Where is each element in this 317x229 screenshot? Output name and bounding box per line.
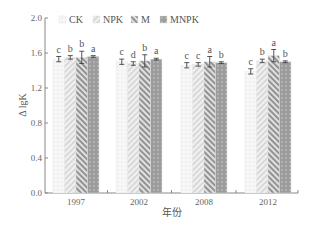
y-tick-label: 2.0 — [31, 13, 43, 23]
significance-letter: d — [131, 49, 136, 60]
legend-item-NPK: NPK — [93, 14, 124, 25]
y-tick-label: 1.2 — [31, 83, 42, 93]
significance-letter: c — [249, 56, 254, 67]
y-tick-label: 0.8 — [31, 118, 43, 128]
bar-M — [268, 56, 280, 193]
x-tick-label: 2012 — [259, 197, 277, 207]
legend-swatch — [160, 16, 167, 23]
legend-label: MNPK — [170, 14, 200, 25]
legend: CKNPKMMNPK — [59, 14, 200, 25]
y-tick-label: 0.0 — [31, 188, 43, 198]
x-tick-label: 1997 — [67, 197, 86, 207]
significance-letter: b — [142, 42, 147, 53]
significance-letter: b — [260, 46, 265, 57]
bar-group-2008: ccab2008 — [181, 44, 227, 208]
legend-swatch — [93, 16, 100, 23]
bar-MNPK — [151, 59, 163, 193]
bar-group-2002: cdba2002 — [116, 42, 162, 207]
significance-letter: a — [272, 37, 277, 48]
legend-item-CK: CK — [59, 14, 84, 25]
bar-MNPK — [88, 57, 100, 194]
significance-letter: c — [196, 50, 201, 61]
bar-CK — [116, 62, 128, 193]
legend-swatch — [59, 16, 66, 23]
bar-M — [76, 57, 88, 193]
x-tick-label: 2002 — [130, 197, 148, 207]
bar-M — [139, 61, 151, 193]
bar-NPK — [65, 57, 77, 193]
bar-MNPK — [216, 63, 228, 193]
legend-label: NPK — [103, 14, 124, 25]
significance-letter: a — [91, 43, 96, 54]
y-tick-label: 0.4 — [31, 153, 43, 163]
legend-item-M: M — [131, 14, 150, 25]
bar-NPK — [193, 64, 205, 193]
bar-NPK — [128, 64, 140, 194]
significance-letter: a — [154, 45, 159, 56]
significance-letter: b — [68, 43, 73, 54]
significance-letter: c — [120, 46, 125, 57]
x-tick-label: 2008 — [195, 197, 214, 207]
legend-label: M — [141, 14, 150, 25]
bar-CK — [53, 59, 65, 193]
legend-swatch — [131, 16, 138, 23]
x-axis-label: 年份 — [162, 206, 182, 218]
legend-label: CK — [69, 14, 84, 25]
bar-chart: 0.00.40.81.21.62.0 cbba1997cdba2002ccab2… — [0, 0, 317, 229]
y-tick-label: 1.6 — [31, 48, 43, 58]
significance-letter: c — [57, 44, 62, 55]
y-axis-label: Δ lgK — [17, 93, 28, 117]
significance-letter: b — [219, 49, 224, 60]
significance-letter: a — [208, 44, 213, 55]
significance-letter: b — [283, 48, 288, 59]
bar-CK — [245, 71, 257, 193]
bar-CK — [181, 65, 193, 193]
bar-MNPK — [280, 62, 292, 193]
bar-group-1997: cbba1997 — [53, 38, 99, 207]
bar-NPK — [257, 61, 269, 193]
legend-item-MNPK: MNPK — [160, 14, 200, 25]
significance-letter: c — [185, 50, 190, 61]
significance-letter: b — [79, 38, 84, 49]
bars: cbba1997cdba2002ccab2008cbab2012 — [53, 37, 291, 208]
bar-M — [204, 62, 216, 193]
bar-group-2012: cbab2012 — [245, 37, 291, 208]
